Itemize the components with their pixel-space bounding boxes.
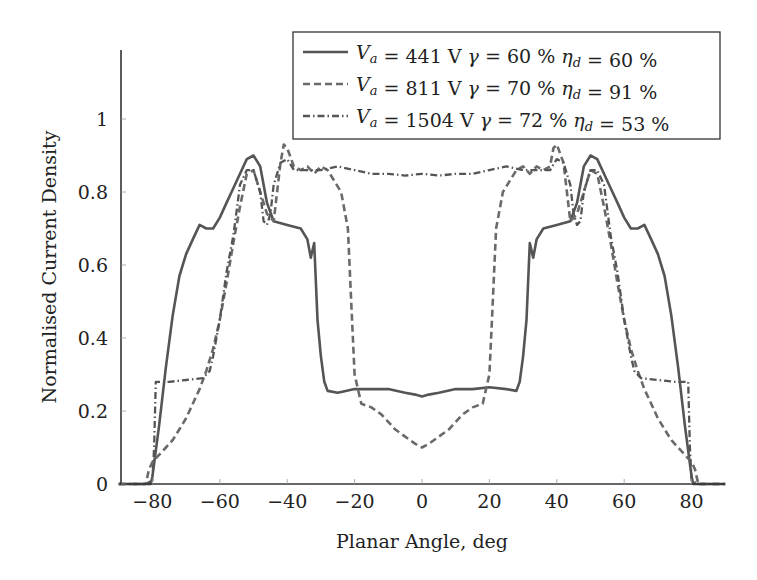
series-line-dashdot [119, 159, 726, 484]
y-tick-label: 0.2 [78, 400, 108, 422]
y-tick-label: 0.8 [78, 181, 108, 203]
series-line-dashed [119, 145, 726, 485]
series-layer [119, 145, 726, 485]
line-chart: −80−60−40−20020406080 00.20.40.60.81 Pla… [0, 0, 757, 580]
x-tick-label: −60 [200, 490, 240, 512]
x-tick-label: −80 [132, 490, 172, 512]
x-tick-label: 20 [477, 490, 501, 512]
x-tick-label: 0 [416, 490, 428, 512]
x-axis-title: Planar Angle, deg [336, 530, 508, 552]
x-tick-label: 40 [545, 490, 569, 512]
x-tick-label: 80 [680, 490, 704, 512]
series-line-solid [119, 156, 726, 485]
x-tick-label: −20 [335, 490, 375, 512]
y-tick-label: 0 [96, 473, 108, 495]
x-tick-label: −40 [267, 490, 307, 512]
y-tick-label: 0.4 [78, 327, 108, 349]
y-tick-label: 0.6 [78, 254, 108, 276]
legend: Va = 441 V γ = 60 % ηd = 60 %Va = 811 V … [293, 32, 720, 139]
x-tick-label: 60 [612, 490, 636, 512]
y-axis-title: Normalised Current Density [38, 130, 60, 403]
y-tick-label: 1 [96, 108, 108, 130]
y-ticks: 00.20.40.60.81 [78, 108, 126, 495]
